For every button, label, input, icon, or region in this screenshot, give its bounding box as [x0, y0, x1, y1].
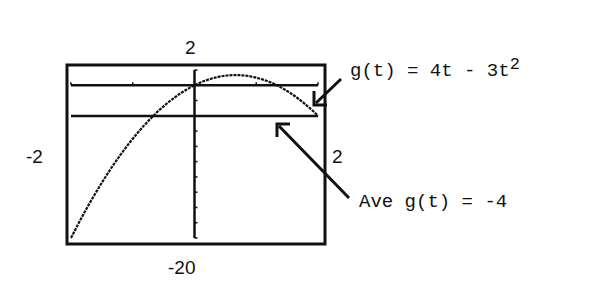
- average-annotation: Ave g(t) = -4: [359, 193, 507, 212]
- graph-window-frame: [67, 65, 325, 244]
- function-annotation: g(t) = 4t - 3t2: [350, 62, 520, 81]
- xmin-label: -2: [26, 147, 43, 166]
- axes: [71, 70, 318, 238]
- ymax-label: 2: [185, 38, 196, 57]
- function-text: g(t) = 4t - 3t: [350, 60, 510, 82]
- xmax-label: 2: [332, 147, 343, 166]
- function-exponent: 2: [510, 55, 520, 74]
- ymin-label: -20: [168, 258, 195, 277]
- calculator-graph: [0, 0, 609, 291]
